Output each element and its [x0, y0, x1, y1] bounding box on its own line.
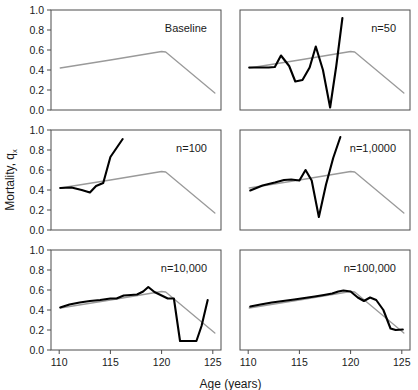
y-tick-label: 0.8: [29, 24, 44, 36]
x-tick-label: 120: [342, 356, 360, 368]
x-tick-label: 120: [153, 356, 171, 368]
y-tick-label: 0.6: [29, 284, 44, 296]
panel-n-10-000: 0.00.20.40.60.81.0110115120125n=10,000: [29, 244, 221, 368]
x-tick-label: 125: [204, 356, 222, 368]
panel-n-100-000: 110115120125n=100,000: [240, 250, 411, 368]
x-tick-label: 115: [102, 356, 119, 368]
panel-label: n=100,000: [344, 262, 396, 274]
y-tick-label: 0.0: [29, 224, 44, 236]
x-tick-label: 125: [393, 356, 411, 368]
y-tick-label: 0.8: [29, 144, 44, 156]
y-tick-label: 0.4: [29, 184, 44, 196]
panel-n-1-0000: n=1,0000: [240, 130, 410, 230]
panel-baseline: 0.00.20.40.60.81.0Baseline: [29, 4, 221, 116]
y-tick-label: 0.8: [29, 264, 44, 276]
y-tick-label: 0.0: [29, 104, 44, 116]
panel-n-100: 0.00.20.40.60.81.0n=100: [29, 124, 221, 236]
y-tick-label: 0.6: [29, 164, 44, 176]
y-tick-label: 1.0: [29, 244, 44, 256]
mortality-simulation-figure: 0.00.20.40.60.81.0Baselinen=500.00.20.40…: [0, 0, 418, 390]
panel-label: Baseline: [165, 22, 207, 34]
y-tick-label: 0.2: [29, 324, 44, 336]
x-tick-label: 110: [240, 356, 257, 368]
y-tick-label: 0.2: [29, 204, 44, 216]
y-tick-label: 0.6: [29, 44, 44, 56]
y-tick-label: 0.0: [29, 344, 44, 356]
panel-label: n=1,0000: [350, 142, 396, 154]
panel-label: n=50: [371, 22, 396, 34]
y-tick-label: 1.0: [29, 124, 44, 136]
y-tick-label: 0.2: [29, 84, 44, 96]
x-axis-title: Age (years): [199, 377, 261, 390]
panel-n-50: n=50: [240, 10, 410, 110]
panel-label: n=10,000: [161, 262, 207, 274]
chart-canvas: 0.00.20.40.60.81.0Baselinen=500.00.20.40…: [0, 0, 418, 390]
y-axis-title: Mortality, qx: [3, 149, 19, 211]
panel-label: n=100: [176, 142, 207, 154]
y-tick-label: 1.0: [29, 4, 44, 16]
y-tick-label: 0.4: [29, 304, 44, 316]
x-tick-label: 115: [291, 356, 308, 368]
x-tick-label: 110: [51, 356, 68, 368]
y-axis-title-subscript: x: [10, 149, 19, 153]
y-tick-label: 0.4: [29, 64, 44, 76]
